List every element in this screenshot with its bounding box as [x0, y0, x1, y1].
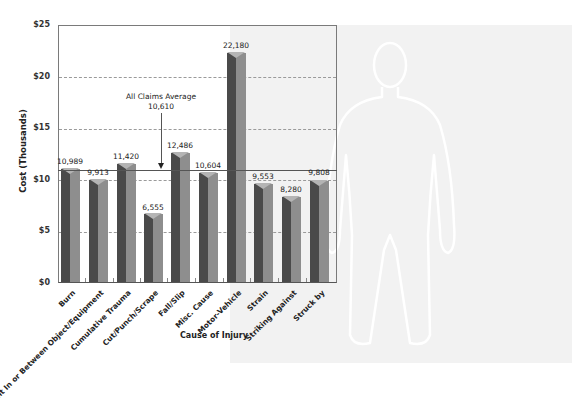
value-label-misc: 10,604 — [188, 161, 228, 170]
y-tick-0: $0 — [10, 278, 50, 287]
bar-motor-vehicle — [227, 53, 246, 282]
x-tick — [278, 278, 279, 282]
value-label-caught: 9,913 — [78, 168, 118, 177]
bar-burn — [61, 169, 80, 282]
x-label-cut: Cut/Punch/Scrape — [101, 288, 160, 347]
value-label-fall: 12,486 — [160, 141, 200, 150]
value-label-strain: 9,553 — [243, 172, 283, 181]
x-tick — [223, 278, 224, 282]
x-tick — [195, 278, 196, 282]
value-label-cut: 6,555 — [133, 203, 173, 212]
bar-struck-by — [310, 181, 329, 282]
gridline-20 — [59, 77, 336, 78]
bar-striking-against — [282, 197, 301, 282]
bar-cut-punch-scrape — [144, 214, 163, 282]
x-tick — [306, 278, 307, 282]
y-tick-20: $20 — [10, 72, 50, 81]
average-arrow-head-icon — [158, 163, 164, 169]
x-tick — [113, 278, 114, 282]
average-arrow-line — [161, 113, 162, 165]
x-tick — [167, 278, 168, 282]
bar-strain — [254, 184, 273, 282]
gridline-15 — [59, 129, 336, 130]
bar-fall-slip — [171, 153, 190, 282]
value-label-cumulative: 11,420 — [106, 152, 146, 161]
bar-cumulative-trauma — [117, 164, 136, 282]
value-label-burn: 10,989 — [50, 157, 90, 166]
x-tick — [140, 278, 141, 282]
x-tick — [85, 278, 86, 282]
y-tick-10: $10 — [10, 175, 50, 184]
y-tick-25: $25 — [10, 20, 50, 29]
x-axis-title: Cause of Injury — [180, 331, 248, 340]
x-tick — [250, 278, 251, 282]
value-label-striking: 8,280 — [271, 185, 311, 194]
plot-area — [58, 25, 337, 283]
x-label-burn: Burn — [57, 288, 78, 309]
x-label-caught: Caught In or Between Object/Equipment — [0, 288, 105, 410]
value-label-motor: 22,180 — [216, 41, 256, 50]
y-tick-5: $5 — [10, 226, 50, 235]
value-label-struck: 9,808 — [299, 168, 339, 177]
bar-misc-cause — [199, 173, 218, 282]
average-value: 10,610 — [101, 102, 221, 111]
y-tick-15: $15 — [10, 123, 50, 132]
bar-caught-in-between — [89, 180, 108, 282]
average-label: All Claims Average — [101, 92, 221, 101]
